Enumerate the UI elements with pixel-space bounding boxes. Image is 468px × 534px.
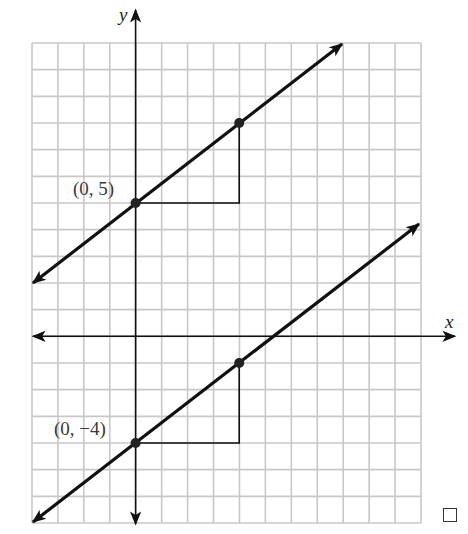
point-label-lower: (0, −4) [54,419,106,438]
point-4-8 [234,118,244,128]
coordinate-plane [0,0,468,534]
point-4-neg1 [234,358,244,368]
point-0-neg4 [131,438,141,448]
line-lower [33,224,419,522]
point-label-upper: (0, 5) [73,179,114,198]
grid-lines [32,43,421,523]
point-0-5 [131,198,141,208]
end-of-example-box [443,508,457,522]
x-axis-label: x [445,312,453,331]
y-axis-label: y [119,5,127,24]
